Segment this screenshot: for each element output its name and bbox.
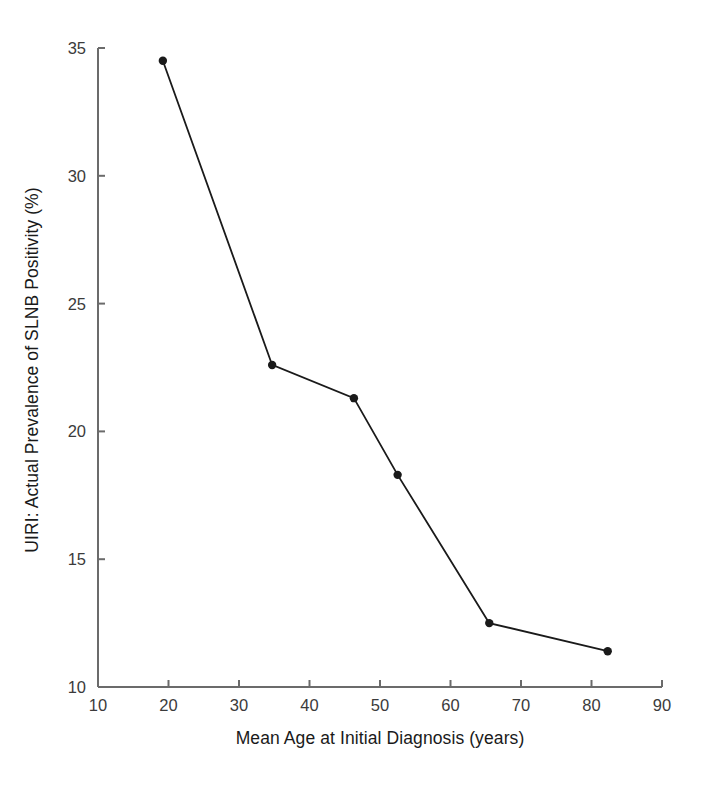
x-tick-label: 20	[159, 696, 177, 714]
x-tick-label: 80	[582, 696, 600, 714]
y-tick-label: 10	[68, 678, 86, 696]
y-tick-label: 15	[68, 550, 86, 568]
data-point-marker	[604, 647, 612, 655]
data-point-marker	[393, 471, 401, 479]
x-tick-label: 40	[300, 696, 318, 714]
data-series	[159, 57, 612, 656]
y-tick-label: 20	[68, 422, 86, 440]
x-tick-label: 10	[89, 696, 107, 714]
chart-figure: UIRI: Actual Prevalence of SLNB Positivi…	[0, 0, 707, 793]
x-tick-label: 70	[512, 696, 530, 714]
x-tick-label: 60	[441, 696, 459, 714]
series-line	[163, 61, 608, 651]
x-tick-label: 30	[230, 696, 248, 714]
x-tick-label: 50	[371, 696, 389, 714]
y-axis-ticks: 101520253035	[68, 39, 105, 696]
y-tick-label: 35	[68, 39, 86, 57]
data-point-marker	[485, 619, 493, 627]
data-point-marker	[268, 361, 276, 369]
data-point-marker	[350, 394, 358, 402]
plot-area: 101520253035 102030405060708090	[0, 0, 707, 793]
data-point-marker	[159, 57, 167, 65]
y-tick-label: 30	[68, 167, 86, 185]
y-tick-label: 25	[68, 295, 86, 313]
x-axis-ticks: 102030405060708090	[89, 680, 671, 714]
x-tick-label: 90	[653, 696, 671, 714]
